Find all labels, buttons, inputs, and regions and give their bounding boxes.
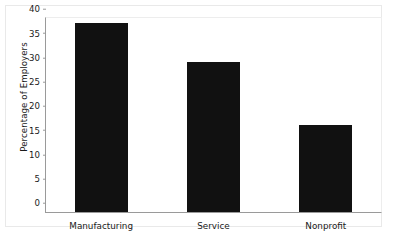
y-axis-tick-label: 25 [29,78,43,87]
y-axis-tick-mark [43,130,46,131]
y-axis-tick-label: 15 [29,126,43,135]
y-axis-tick-label: 40 [29,5,43,14]
y-axis-tick: 10 [29,151,46,160]
y-axis-tick-mark [43,203,46,204]
y-axis-tick: 15 [29,126,46,135]
bar-service[interactable] [187,62,240,212]
plot-area: 0510152025303540 [45,17,382,213]
y-axis-tick-label: 0 [35,199,43,208]
y-axis-tick: 5 [35,175,46,184]
x-axis-label-manufacturing: Manufacturing [41,221,161,231]
y-axis-tick-label: 10 [29,151,43,160]
y-axis-tick-label: 30 [29,54,43,63]
bar-slot [75,18,128,212]
y-axis-tick-label: 35 [29,29,43,38]
y-axis-tick-mark [43,57,46,58]
y-axis-tick: 40 [29,5,46,14]
y-axis-tick: 0 [35,199,46,208]
y-axis-tick-mark [43,179,46,180]
y-axis-tick-mark [43,154,46,155]
y-axis-tick-mark [43,9,46,10]
y-axis-title: Percentage of Employers [19,17,29,177]
x-axis-label-nonprofit: Nonprofit [266,221,386,231]
y-axis-tick-label: 20 [29,102,43,111]
y-axis-tick-label: 5 [35,175,43,184]
bar-slot [299,18,352,212]
y-axis-tick-mark [43,82,46,83]
bar-chart: Percentage of Employers 0510152025303540… [0,0,400,249]
y-axis-tick: 35 [29,29,46,38]
bar-manufacturing[interactable] [75,23,128,212]
y-axis-tick: 25 [29,78,46,87]
y-axis-tick-mark [43,33,46,34]
y-axis-tick-mark [43,106,46,107]
bar-slot [187,18,240,212]
bar-nonprofit[interactable] [299,125,352,212]
y-axis-tick: 30 [29,54,46,63]
y-axis-tick: 20 [29,102,46,111]
x-axis-label-service: Service [154,221,274,231]
